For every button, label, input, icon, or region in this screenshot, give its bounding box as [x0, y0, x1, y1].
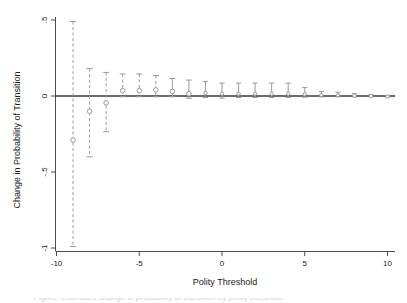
caption-strip: Figure: Estimated change in probability … [0, 298, 407, 303]
x-tick-label: 10 [383, 259, 392, 268]
data-point-marker [71, 138, 76, 143]
errorbar [70, 22, 76, 247]
data-point-marker [320, 93, 323, 96]
data-point-marker [170, 89, 175, 94]
y-axis-title: Change in Probability of Transition [12, 71, 22, 208]
data-point-marker [204, 91, 207, 94]
errorbar-series [70, 22, 390, 247]
data-point-marker [120, 88, 125, 93]
polity-threshold-errorbar-chart: Change in Probability of Transition .50-… [0, 0, 407, 303]
x-axis-tick-labels: -10-50510 [51, 259, 393, 268]
data-point-marker [237, 92, 240, 95]
data-point-marker [270, 92, 273, 95]
data-point-marker [386, 95, 389, 98]
y-tick-label: .5 [40, 16, 49, 23]
x-tick-label: -10 [51, 259, 63, 268]
data-point-marker [336, 94, 339, 97]
data-point-marker [104, 101, 109, 106]
data-point-marker [369, 94, 372, 97]
y-axis-tick-labels: .50-.5-1 [40, 16, 49, 251]
y-tick-label: -1 [40, 244, 49, 252]
errorbar [153, 75, 159, 96]
y-axis-ticks [51, 20, 56, 248]
y-tick-label: 0 [40, 93, 49, 98]
figure-caption: Figure: Estimated change in probability … [34, 298, 283, 302]
x-tick-label: 0 [220, 259, 225, 268]
data-point-marker [87, 109, 92, 114]
x-axis-ticks [57, 252, 388, 257]
data-point-marker [220, 92, 223, 95]
data-point-marker [287, 92, 290, 95]
data-point-marker [303, 92, 306, 95]
x-tick-label: -5 [136, 259, 144, 268]
x-axis-title: Polity Threshold [193, 277, 257, 287]
y-tick-label: -.5 [40, 167, 49, 177]
data-point-marker [154, 88, 159, 93]
data-point-marker [253, 92, 256, 95]
figure-container: Change in Probability of Transition .50-… [0, 0, 407, 303]
data-point-marker [353, 94, 356, 97]
x-tick-label: 5 [303, 259, 308, 268]
data-point-marker [187, 91, 192, 96]
data-point-marker [137, 88, 142, 93]
